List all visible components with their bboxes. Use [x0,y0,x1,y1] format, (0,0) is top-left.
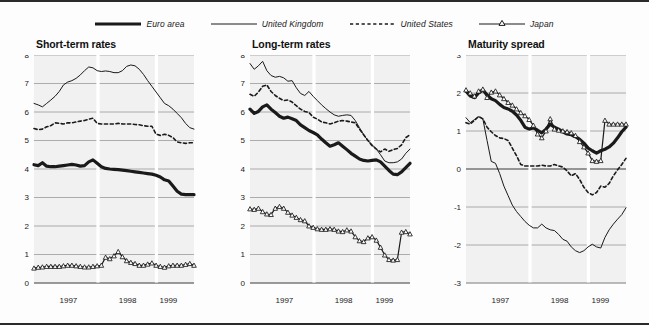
x-tick-label: 1999 [591,296,609,305]
y-tick-label: 7 [25,79,30,88]
panel-title: Long-term rates [252,38,330,50]
chart-legend: Euro areaUnited KingdomUnited StatesJapa… [0,16,649,32]
y-tick-label: 5 [25,136,30,145]
y-tick-label: 8 [25,55,30,60]
y-tick-label: 3 [25,193,30,202]
y-tick-label: 6 [241,108,246,117]
x-tick-label: 1998 [335,296,353,305]
x-tick-label: 1999 [375,296,393,305]
y-tick-label: 5 [241,136,246,145]
legend-item: Japan [479,19,554,29]
y-tick-label: 1 [241,250,246,259]
legend-item-label: United Kingdom [262,19,324,29]
marker-swatch-icon [479,19,525,29]
legend-item: United Kingdom [211,19,324,29]
y-tick-label: 1 [457,127,462,136]
y-tick-label: 2 [241,222,246,231]
plot-area: -3-2-10123 [432,55,634,289]
y-tick-label: 0 [25,279,30,288]
line-swatch-icon [95,19,141,29]
y-tick-label: 2 [25,222,30,231]
chart-panel: Maturity spread-3-2-10123199719981999 [432,38,649,313]
y-tick-label: 0 [457,165,462,174]
y-tick-label: -1 [454,203,462,212]
plot-area: 012345678 [0,55,202,289]
legend-item-label: United States [401,19,453,29]
y-tick-label: -3 [454,279,462,288]
legend-item: United States [350,19,453,29]
chart-panel: Short-term rates012345678199719981999 [0,38,216,313]
y-tick-label: -2 [454,241,462,250]
y-tick-label: 0 [241,279,246,288]
y-tick-label: 8 [241,55,246,60]
line-swatch-icon [211,19,257,29]
x-tick-label: 1997 [275,296,293,305]
x-tick-label: 1998 [119,296,137,305]
y-tick-label: 4 [241,165,246,174]
legend-item-label: Japan [530,19,554,29]
panel-row: Short-term rates012345678199719981999Lon… [0,38,649,313]
y-tick-label: 4 [25,165,30,174]
legend-item-label: Euro area [146,19,184,29]
chart-panel: Long-term rates012345678199719981999 [216,38,432,313]
dashed-swatch-icon [350,19,396,29]
legend-item: Euro area [95,19,184,29]
panel-title: Maturity spread [468,38,545,50]
plot-area: 012345678 [216,55,418,289]
x-tick-label: 1997 [59,296,77,305]
y-tick-label: 2 [457,89,462,98]
panel-title: Short-term rates [36,38,116,50]
x-tick-label: 1999 [159,296,177,305]
y-tick-label: 3 [457,55,462,60]
y-tick-label: 1 [25,250,30,259]
y-tick-label: 6 [25,108,30,117]
x-tick-label: 1998 [551,296,569,305]
y-tick-label: 7 [241,79,246,88]
figure-container: Euro areaUnited KingdomUnited StatesJapa… [0,0,649,325]
x-tick-label: 1997 [491,296,509,305]
y-tick-label: 3 [241,193,246,202]
